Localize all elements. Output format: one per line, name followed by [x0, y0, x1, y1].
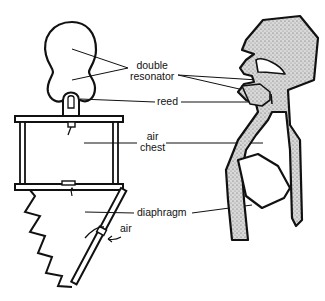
top-board [15, 116, 123, 122]
label-air-chest-chest: chest [140, 141, 165, 153]
label-resonator: resonator [130, 70, 174, 82]
label-diaphragm: diaphragm [137, 207, 187, 218]
label-air: air [120, 223, 132, 234]
label-double-resonator: double resonator [130, 60, 174, 82]
bellows [25, 190, 72, 287]
reed-housing [63, 93, 79, 117]
double-resonator-shape [45, 22, 96, 102]
label-air-chest: air chest [140, 131, 165, 153]
label-reed: reed [157, 96, 178, 107]
vocal-tract-figure [226, 16, 318, 240]
diaphragm-board [70, 188, 127, 285]
